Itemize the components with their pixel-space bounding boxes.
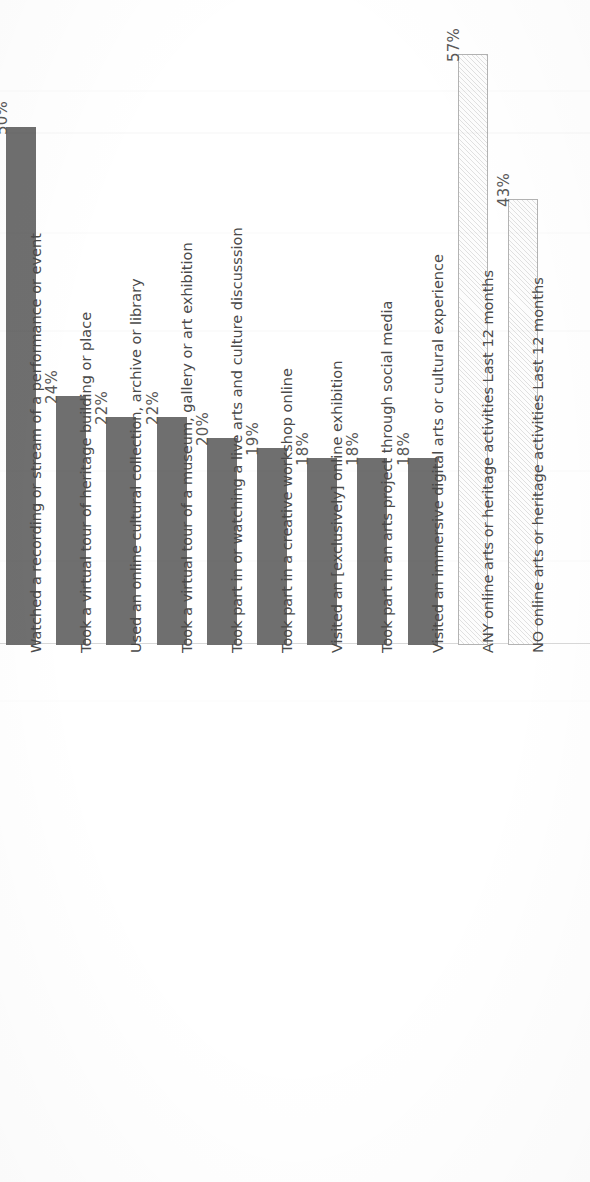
category-label: ANY online arts or heritage activities L…: [480, 270, 496, 653]
category-label: Used an online cultural collection, arch…: [128, 278, 144, 653]
bar-value-label: 20%: [194, 412, 212, 446]
bar-chart: 50%24%22%22%20%19%18%18%18%57%43% Watche…: [0, 0, 590, 1182]
bar-value-label: 50%: [0, 101, 11, 135]
category-label: Visited an immersive digital arts or cul…: [430, 254, 446, 653]
category-label: Visited an [exclusively] online exhibiti…: [329, 361, 345, 653]
bar-value-label: 18%: [395, 432, 413, 466]
bar-value-label: 43%: [495, 173, 513, 207]
bar-value-label: 18%: [344, 432, 362, 466]
category-label: Took a virtual tour of heritage building…: [78, 312, 94, 653]
category-label: Watched a recording or stream of a perfo…: [28, 233, 44, 653]
category-label: Took a virtual tour of a museum, gallery…: [179, 242, 195, 653]
category-label: Took part in an arts project through soc…: [379, 301, 395, 653]
bar-value-label: 18%: [294, 432, 312, 466]
bar-value-label: 22%: [144, 391, 162, 425]
bar-value-label: 57%: [445, 28, 463, 62]
category-label: Took part in a creative workshop online: [279, 368, 295, 653]
bar-value-label: 19%: [244, 422, 262, 456]
bar-value-label: 24%: [43, 370, 61, 404]
bar-value-label: 22%: [93, 391, 111, 425]
category-label: Took part in or watching a live arts and…: [229, 227, 245, 653]
category-label: NO online arts or heritage activities La…: [530, 277, 546, 653]
category-axis: Watched a recording or stream of a perfo…: [0, 645, 590, 1182]
